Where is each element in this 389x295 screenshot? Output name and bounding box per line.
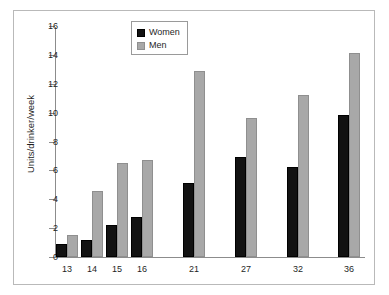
bar-women-36 [338,115,349,257]
gray-square-swatch-icon [137,42,145,50]
y-tick-label: 16 [36,22,58,31]
y-tick-label: 10 [36,109,58,118]
y-tick-label: 14 [36,51,58,60]
y-tick-label: 2 [36,224,58,233]
bar-men-21 [194,71,205,257]
legend-item-women: Women [137,26,187,39]
bar-men-13 [67,235,78,257]
bar-men-32 [298,95,309,257]
bar-men-27 [246,118,257,257]
chart-legend: Women Men [131,21,188,55]
y-tick-label: 6 [36,166,58,175]
x-tick-label: 36 [334,265,364,274]
bar-women-21 [183,183,194,257]
bar-men-14 [92,191,103,257]
bar-women-27 [235,157,246,257]
y-tick-label: 0 [36,253,58,262]
legend-label-men: Men [149,41,167,50]
x-tick-label: 32 [283,265,313,274]
x-tick-label: 21 [179,265,209,274]
bar-women-13 [56,244,67,257]
plot-area: Units/drinker/week 0246810121416 1314151… [14,11,374,284]
y-tick-label: 8 [36,138,58,147]
bar-women-32 [287,167,298,257]
bar-women-14 [81,240,92,257]
chart-figure: Units/drinker/week 0246810121416 1314151… [13,10,375,285]
bar-men-36 [349,53,360,257]
bar-men-16 [142,160,153,257]
y-axis-title: Units/drinker/week [26,59,36,209]
legend-label-women: Women [149,28,180,37]
y-tick-label: 4 [36,195,58,204]
legend-item-men: Men [137,39,187,52]
bar-women-16 [131,217,142,257]
x-tick-label: 16 [127,265,157,274]
x-tick-label: 27 [231,265,261,274]
black-square-swatch-icon [137,29,145,37]
x-axis-line [55,257,365,258]
bar-men-15 [117,163,128,257]
y-tick-label: 12 [36,80,58,89]
bar-women-15 [106,225,117,257]
